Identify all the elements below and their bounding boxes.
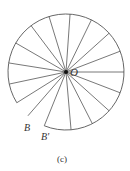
radial-line xyxy=(44,72,66,126)
unrolled-cone-diagram: O B B' (c) xyxy=(0,0,130,171)
label-b-prime: B' xyxy=(41,131,50,142)
label-b: B xyxy=(24,122,30,133)
center-point-o xyxy=(64,70,68,74)
radial-line xyxy=(66,20,91,72)
radial-line xyxy=(31,26,66,72)
label-o: O xyxy=(70,66,78,78)
radial-line xyxy=(17,72,66,103)
radial-line xyxy=(66,14,70,72)
figure-caption: (c) xyxy=(57,154,67,164)
